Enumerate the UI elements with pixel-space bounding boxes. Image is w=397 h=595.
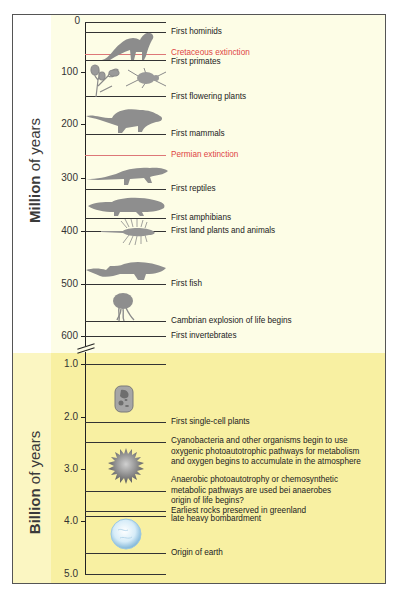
event-line-permian [85,155,166,156]
tick-mark [81,72,86,73]
fish-icon [86,260,170,284]
event-line-invertebrates [85,336,166,337]
event-label-anaerobic: Anaerobic photoautotrophy or chemosynthe… [171,475,338,507]
tick-label-2-0: 2.0 [48,411,78,422]
event-line-mammals [85,134,166,135]
tick-label-4-0: 4.0 [48,515,78,526]
event-label-cambrian: Cambrian explosion of life begins [171,316,292,327]
event-label-reptiles: First reptiles [171,184,216,195]
plant-icon [88,62,124,98]
insect-icon [124,66,168,90]
event-line-reptiles [85,189,166,190]
reptile-icon [86,165,170,187]
tick-label-100: 100 [48,66,78,77]
earth-icon [110,518,142,550]
cell-icon [114,385,134,413]
event-line-1-0 [85,364,166,365]
tick-label-0: 0 [50,15,80,26]
billion-years-axis-label: Billion of years [26,403,43,563]
tick-label-600: 600 [48,330,78,341]
top-boundary-line [85,22,166,23]
arthropod-icon [95,219,167,245]
event-label-fish: First fish [171,279,202,290]
event-line-rocks [85,511,166,512]
tick-mark [81,417,86,418]
event-line-earth [85,553,166,554]
event-line-single-cell [85,422,166,423]
event-label-cyanobacteria: Cyanobacteria and other organisms begin … [171,436,361,468]
sun-icon [108,448,144,484]
event-label-amphibians: First amphibians [171,213,231,224]
tick-label-300: 300 [48,172,78,183]
event-label-earth: Origin of earth [171,548,223,559]
amphibian-icon [88,196,166,218]
million-years-axis-label: Million of years [26,91,43,251]
event-label-permian: Permian extinction [171,150,238,161]
jellyfish-icon [110,292,140,322]
event-line-fish [85,284,166,285]
event-label-hominids: First hominids [171,27,222,38]
tick-mark [81,521,86,522]
tick-label-400: 400 [48,225,78,236]
event-line-bombardment [85,516,166,517]
tick-label-1-0: 1.0 [48,358,78,369]
event-label-land: First land plants and animals [171,226,275,237]
primate-icon [100,30,160,62]
event-label-flowering: First flowering plants [171,92,246,103]
tick-label-3-0: 3.0 [48,463,78,474]
event-label-bombardment: late heavy bombardment [171,514,261,525]
event-line-cyanobacteria [85,442,166,443]
event-line-anaerobic [85,491,166,492]
event-label-single-cell: First single-cell plants [171,417,250,428]
tick-label-200: 200 [48,118,78,129]
billion-axis-line [85,352,86,574]
mammal-icon [86,106,166,134]
event-label-invertebrates: First invertebrates [171,331,237,342]
tick-label-5-0: 5.0 [48,568,78,579]
tick-mark [81,469,86,470]
event-label-primates: First primates [171,57,221,68]
event-label-mammals: First mammals [171,129,225,140]
bottom-boundary-line [85,574,166,575]
tick-label-500: 500 [48,278,78,289]
